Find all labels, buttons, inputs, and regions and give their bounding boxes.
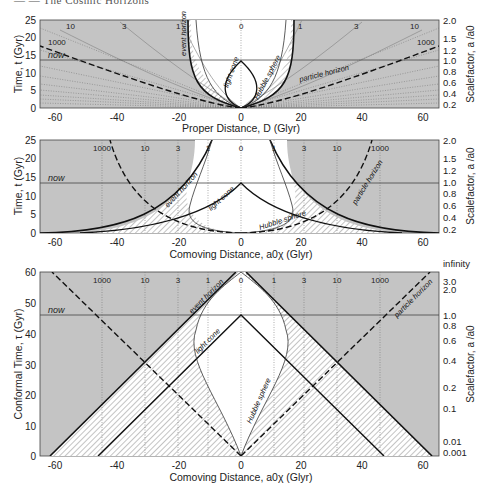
- right-axis-ticks: 0.2 0.4 0.6 0.8 1.0 1.2 1.5 2.0: [443, 15, 456, 110]
- svg-text:1.0: 1.0: [443, 310, 456, 321]
- svg-text:1.5: 1.5: [443, 153, 456, 164]
- svg-text:0.4: 0.4: [443, 212, 456, 223]
- svg-text:25: 25: [25, 15, 37, 26]
- svg-text:1: 1: [206, 144, 211, 153]
- svg-text:20: 20: [295, 460, 307, 471]
- svg-text:10: 10: [141, 276, 150, 285]
- svg-text:5: 5: [30, 85, 36, 96]
- svg-text:infinity: infinity: [443, 258, 470, 269]
- svg-text:1.2: 1.2: [443, 165, 456, 176]
- svg-text:-20: -20: [172, 460, 187, 471]
- svg-text:1000: 1000: [48, 38, 66, 47]
- svg-text:50: 50: [25, 298, 37, 309]
- svg-text:0: 0: [238, 460, 244, 471]
- svg-text:60: 60: [25, 267, 37, 278]
- svg-text:1: 1: [298, 22, 303, 31]
- svg-text:25: 25: [25, 135, 37, 146]
- x-axis-ticks: -60 -40 -20 0 20 40 60: [48, 237, 429, 248]
- cosmic-horizons-figure: 25 20 15 10 5 0 -60 -40 -20 0 20 40 60 0…: [0, 0, 482, 491]
- right-axis-label: Scalefactor, a /a0: [465, 25, 476, 103]
- svg-text:-60: -60: [48, 460, 63, 471]
- svg-text:0: 0: [239, 276, 244, 285]
- svg-text:2.0: 2.0: [443, 15, 456, 26]
- svg-text:40: 40: [25, 329, 37, 340]
- event-horizon-label: event horizon: [179, 11, 188, 56]
- svg-text:-60: -60: [48, 237, 63, 248]
- svg-text:20: 20: [25, 32, 37, 43]
- svg-text:10: 10: [410, 22, 419, 31]
- svg-text:0: 0: [239, 144, 244, 153]
- svg-text:0.2: 0.2: [443, 224, 456, 235]
- svg-text:10: 10: [66, 22, 75, 31]
- svg-text:10: 10: [25, 68, 37, 79]
- svg-text:60: 60: [417, 237, 429, 248]
- y-axis-label: Time, t (Gyr): [12, 157, 24, 216]
- now-label: now: [48, 50, 65, 60]
- svg-text:0.8: 0.8: [443, 320, 456, 331]
- svg-text:0.6: 0.6: [443, 77, 456, 88]
- svg-text:3: 3: [302, 276, 307, 285]
- svg-text:1: 1: [272, 276, 277, 285]
- panel-conformal-time: 60 50 40 30 20 10 0 -60 -40 -20 0 20 40 …: [12, 258, 476, 483]
- svg-text:1000: 1000: [371, 144, 389, 153]
- svg-text:10: 10: [25, 421, 37, 432]
- svg-text:1.0: 1.0: [443, 55, 456, 66]
- svg-text:10: 10: [333, 276, 342, 285]
- svg-text:30: 30: [25, 360, 37, 371]
- x-axis-label: Proper Distance, D (Glyr): [182, 122, 300, 134]
- svg-text:3: 3: [122, 22, 127, 31]
- svg-text:3: 3: [176, 144, 181, 153]
- svg-text:0.8: 0.8: [443, 66, 456, 77]
- svg-text:0: 0: [30, 103, 36, 114]
- svg-text:1.0: 1.0: [443, 177, 456, 188]
- svg-text:3.0: 3.0: [443, 276, 456, 287]
- right-axis-label: Scalefactor, a /a0: [465, 147, 476, 225]
- svg-text:20: 20: [25, 153, 37, 164]
- svg-text:40: 40: [356, 460, 368, 471]
- svg-text:0.6: 0.6: [443, 200, 456, 211]
- svg-text:1000: 1000: [93, 276, 111, 285]
- svg-text:0.001: 0.001: [443, 447, 467, 458]
- svg-text:60: 60: [417, 460, 429, 471]
- svg-text:15: 15: [25, 50, 37, 61]
- svg-text:20: 20: [25, 390, 37, 401]
- svg-text:10: 10: [25, 191, 37, 202]
- y-axis-label: Time, t (Gyr): [12, 35, 24, 94]
- svg-text:3: 3: [176, 276, 181, 285]
- svg-text:-60: -60: [48, 112, 63, 123]
- svg-text:1.2: 1.2: [443, 45, 456, 56]
- svg-text:0.2: 0.2: [443, 382, 456, 393]
- right-axis-label: Scalefactor, a /a0: [465, 325, 476, 403]
- svg-text:1000: 1000: [93, 144, 111, 153]
- svg-text:1000: 1000: [417, 38, 435, 47]
- svg-text:3: 3: [302, 144, 307, 153]
- svg-text:10: 10: [141, 144, 150, 153]
- panel-comoving-distance: 25 20 15 10 5 0 -60 -40 -20 0 20 40 60 0…: [12, 135, 476, 260]
- svg-text:40: 40: [356, 237, 368, 248]
- svg-text:0: 0: [30, 451, 36, 462]
- panel-proper-distance: 25 20 15 10 5 0 -60 -40 -20 0 20 40 60 0…: [12, 11, 476, 134]
- svg-text:-40: -40: [110, 237, 125, 248]
- x-axis-label: Comoving Distance, a0χ (Glyr): [169, 471, 312, 483]
- svg-text:0: 0: [238, 237, 244, 248]
- y-axis-ticks: 25 20 15 10 5 0: [25, 15, 37, 114]
- svg-text:15: 15: [25, 172, 37, 183]
- now-label: now: [48, 173, 65, 183]
- x-axis-label: Comoving Distance, a0χ (Glyr): [169, 248, 312, 260]
- svg-text:1: 1: [272, 144, 277, 153]
- svg-text:0.4: 0.4: [443, 355, 456, 366]
- y-axis-label: Conformal Time, τ (Gyr): [12, 309, 24, 420]
- svg-text:-20: -20: [172, 237, 187, 248]
- svg-text:40: 40: [356, 112, 368, 123]
- svg-text:0.2: 0.2: [443, 99, 456, 110]
- svg-text:0.8: 0.8: [443, 188, 456, 199]
- svg-text:-40: -40: [110, 460, 125, 471]
- svg-text:60: 60: [417, 112, 429, 123]
- svg-text:20: 20: [295, 237, 307, 248]
- svg-text:0: 0: [30, 228, 36, 239]
- svg-text:0: 0: [239, 22, 244, 31]
- now-label: now: [48, 305, 65, 315]
- svg-text:10: 10: [333, 144, 342, 153]
- svg-text:-40: -40: [110, 112, 125, 123]
- svg-text:1.5: 1.5: [443, 33, 456, 44]
